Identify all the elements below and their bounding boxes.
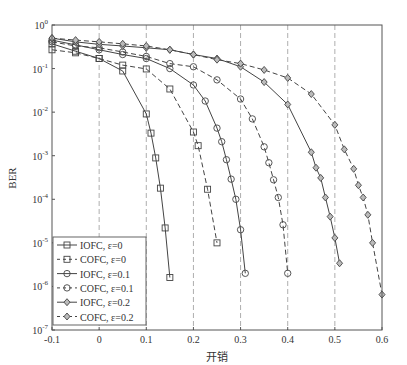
- ber-chart: -0.100.10.20.30.40.50.6 10010-110-210-31…: [0, 0, 407, 365]
- legend-label: IOFC, ε=0: [80, 240, 123, 251]
- y-tick-exponent: -6: [42, 279, 48, 287]
- y-tick-exponent: -4: [42, 192, 48, 200]
- legend-label: COFC, ε=0.2: [80, 312, 133, 323]
- legend-label: IOFC, ε=0.2: [80, 297, 130, 308]
- x-tick-label: 0.5: [329, 334, 342, 345]
- x-tick-label: 0: [97, 334, 102, 345]
- y-tick-exponent: 0: [45, 18, 49, 26]
- y-tick-exponent: -1: [42, 62, 48, 70]
- legend-label: COFC, ε=0: [80, 254, 126, 265]
- x-tick-label: 0.2: [187, 334, 200, 345]
- y-tick-exponent: -5: [42, 236, 48, 244]
- x-tick-label: 0.3: [234, 334, 247, 345]
- x-axis-label: 开销: [206, 350, 228, 363]
- x-tick-label: -0.1: [44, 334, 60, 345]
- x-tick-label: 0.1: [140, 334, 153, 345]
- x-tick-label: 0.4: [281, 334, 294, 345]
- legend-label: COFC, ε=0.1: [80, 283, 133, 294]
- x-tick-label: 0.6: [376, 334, 389, 345]
- y-tick-exponent: -3: [42, 149, 48, 157]
- y-tick-exponent: -2: [42, 105, 48, 113]
- legend: IOFC, ε=0COFC, ε=0IOFC, ε=0.1COFC, ε=0.1…: [53, 237, 146, 325]
- y-axis-label: BER: [6, 167, 18, 189]
- legend-label: IOFC, ε=0.1: [80, 269, 130, 280]
- y-tick-exponent: -7: [42, 323, 48, 331]
